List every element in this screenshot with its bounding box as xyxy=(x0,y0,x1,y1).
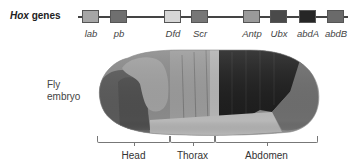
bracket-head xyxy=(97,136,170,143)
region-label-thorax: Thorax xyxy=(170,150,215,161)
region-label-head: Head xyxy=(97,150,170,161)
bracket-abdomen xyxy=(215,136,318,143)
region-label-abdomen: Abdomen xyxy=(215,150,318,161)
bracket-thorax xyxy=(170,136,215,143)
